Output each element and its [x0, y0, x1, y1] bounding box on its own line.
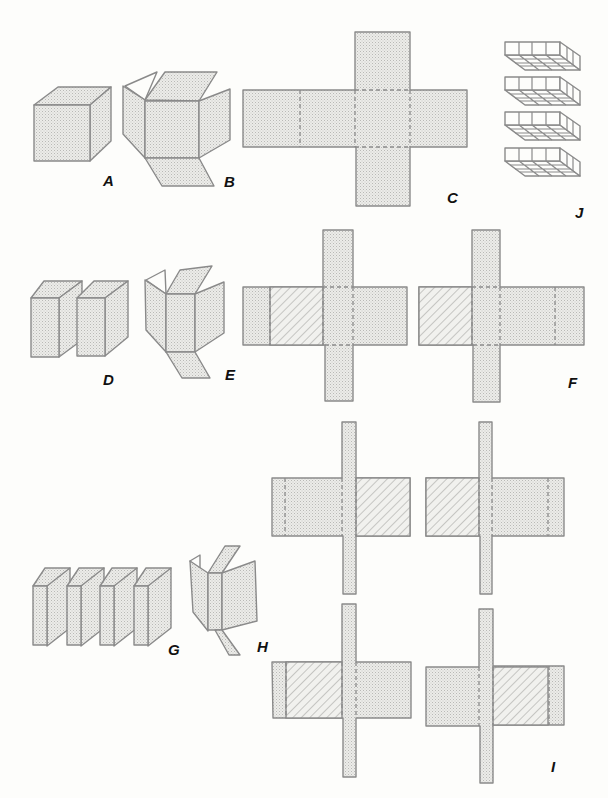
label-j: J	[575, 204, 584, 221]
label-c: C	[447, 189, 459, 206]
figure-e-unfolded-half-slab: E	[145, 266, 236, 383]
figure-a-cube: A	[34, 87, 114, 189]
net-f-2	[419, 230, 584, 402]
cube-nets-diagram: A B C J	[0, 0, 608, 798]
label-b: B	[224, 173, 235, 190]
label-e: E	[225, 366, 236, 383]
figure-c-cross-net: C	[243, 32, 467, 206]
figure-j-stacked-slabs: J	[505, 42, 584, 221]
label-d: D	[103, 371, 114, 388]
label-i: I	[551, 758, 556, 775]
label-f: F	[568, 374, 578, 391]
net-i-1	[272, 422, 410, 594]
figure-b-unfolded-cube: B	[123, 72, 235, 190]
net-i-3	[272, 604, 411, 777]
label-a: A	[102, 172, 114, 189]
net-i-4	[426, 609, 564, 783]
net-f-1	[243, 230, 407, 401]
net-i-2	[426, 422, 564, 594]
label-g: G	[168, 641, 180, 658]
label-h: H	[257, 638, 269, 655]
figure-h-unfolded-quarter-slab: H	[190, 546, 269, 655]
figure-d-half-slabs: D	[31, 281, 128, 388]
figure-i-quarter-slab-nets: I	[272, 422, 564, 783]
figure-g-quarter-slabs: G	[33, 568, 180, 658]
figure-f-half-slab-nets: F	[243, 230, 584, 402]
